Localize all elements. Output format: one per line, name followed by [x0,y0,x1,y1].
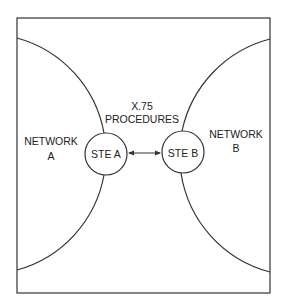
network-a-boundary-lower [17,175,104,270]
network-a-label-line1: NETWORK [24,135,78,147]
network-b-label-line1: NETWORK [209,128,263,140]
network-a-label-line2: A [47,150,54,162]
link-label-procedures: PROCEDURES [105,113,179,125]
ste-a-label: STE A [91,148,121,160]
network-b-boundary-lower [181,173,270,272]
x75-diagram: STE A STE B X.75 PROCEDURES NETWORK A NE… [0,0,282,307]
link-label-protocol: X.75 [131,100,153,112]
network-b-label-line2: B [232,142,239,154]
ste-b-label: STE B [168,147,198,159]
network-a-boundary-upper [17,38,104,133]
network-b-boundary-upper [182,39,270,131]
